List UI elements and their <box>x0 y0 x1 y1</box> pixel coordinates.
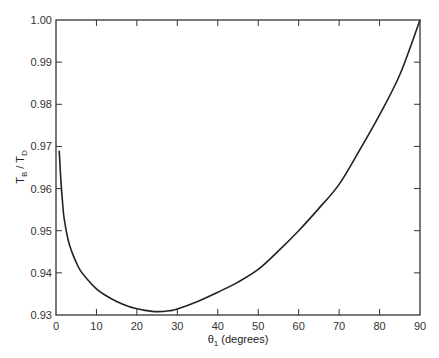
y-tick-label: 0.95 <box>31 225 52 237</box>
plot-frame <box>56 20 420 315</box>
x-tick-label: 60 <box>293 320 305 332</box>
x-tick-label: 10 <box>90 320 102 332</box>
y-tick-label: 0.96 <box>31 183 52 195</box>
data-series-line <box>59 20 420 312</box>
x-tick-labels: 0102030405060708090 <box>53 320 426 332</box>
x-tick-label: 50 <box>252 320 264 332</box>
x-tick-label: 70 <box>333 320 345 332</box>
x-tick-label: 0 <box>53 320 59 332</box>
axis-ticks <box>56 20 420 315</box>
y-tick-label: 0.99 <box>31 56 52 68</box>
y-axis-label: TB / TD <box>14 150 29 184</box>
y-tick-label: 0.98 <box>31 98 52 110</box>
y-tick-label: 0.94 <box>31 267 52 279</box>
x-tick-label: 90 <box>414 320 426 332</box>
y-tick-labels: 0.930.940.950.960.970.980.991.00 <box>31 14 52 321</box>
y-tick-label: 1.00 <box>31 14 52 26</box>
line-chart: 0102030405060708090 0.930.940.950.960.97… <box>0 0 439 358</box>
y-tick-label: 0.93 <box>31 309 52 321</box>
x-tick-label: 80 <box>373 320 385 332</box>
x-tick-label: 20 <box>131 320 143 332</box>
x-tick-label: 40 <box>212 320 224 332</box>
x-axis-label: θ1 (degrees) <box>208 333 269 348</box>
y-tick-label: 0.97 <box>31 140 52 152</box>
x-tick-label: 30 <box>171 320 183 332</box>
